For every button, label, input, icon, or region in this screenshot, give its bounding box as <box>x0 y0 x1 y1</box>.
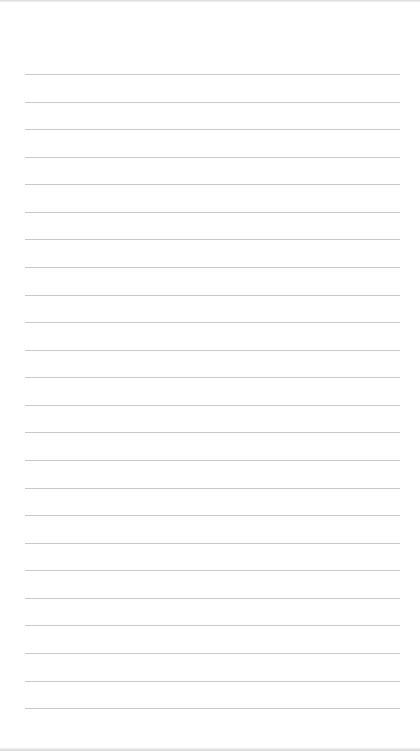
ruled-line <box>25 432 400 433</box>
ruled-line <box>25 74 400 75</box>
ruled-line <box>25 625 400 626</box>
ruled-line <box>25 295 400 296</box>
ruled-line <box>25 681 400 682</box>
ruled-line <box>25 570 400 571</box>
ruled-line <box>25 405 400 406</box>
ruled-line <box>25 488 400 489</box>
ruled-line <box>25 239 400 240</box>
ruled-line <box>25 350 400 351</box>
ruled-line <box>25 129 400 130</box>
ruled-line <box>25 515 400 516</box>
ruled-line <box>25 184 400 185</box>
ruled-line <box>25 322 400 323</box>
ruled-line <box>25 543 400 544</box>
ruled-line <box>25 377 400 378</box>
ruled-line <box>25 653 400 654</box>
page-top-edge <box>0 0 420 2</box>
ruled-line <box>25 157 400 158</box>
ruled-line <box>25 212 400 213</box>
ruled-line <box>25 102 400 103</box>
ruled-line <box>25 267 400 268</box>
ruled-line <box>25 708 400 709</box>
ruled-line <box>25 460 400 461</box>
ruled-line <box>25 598 400 599</box>
